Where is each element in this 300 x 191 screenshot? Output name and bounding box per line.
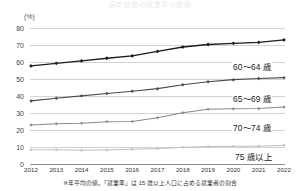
data-point xyxy=(181,111,184,114)
data-point xyxy=(80,94,83,97)
data-point xyxy=(257,77,260,80)
data-point xyxy=(181,146,184,149)
data-point xyxy=(29,123,32,126)
data-point xyxy=(206,43,210,47)
data-point xyxy=(80,59,84,63)
data-point xyxy=(105,56,109,60)
data-point xyxy=(105,120,108,123)
data-point xyxy=(156,116,159,119)
data-point xyxy=(130,54,134,58)
data-point xyxy=(131,90,134,93)
data-point xyxy=(105,148,108,151)
series-label-65-69: 65～69 歳 xyxy=(232,92,272,104)
data-point xyxy=(80,122,83,125)
data-point xyxy=(55,97,58,100)
data-point xyxy=(131,148,134,151)
series-label-60-64: 60～64 歳 xyxy=(232,60,272,72)
data-point xyxy=(282,105,285,108)
data-point xyxy=(156,50,160,54)
data-point xyxy=(29,64,33,68)
data-point xyxy=(55,148,58,151)
data-point xyxy=(206,80,209,83)
data-point xyxy=(80,149,83,152)
data-point xyxy=(207,145,210,148)
data-point xyxy=(131,120,134,123)
data-point xyxy=(55,122,58,125)
data-point xyxy=(29,99,32,102)
data-point xyxy=(54,61,58,65)
data-point xyxy=(181,83,184,86)
data-point xyxy=(232,78,235,81)
data-point xyxy=(30,148,33,151)
data-point xyxy=(156,87,159,90)
data-point xyxy=(283,144,286,147)
data-point xyxy=(232,107,235,110)
data-point xyxy=(207,108,210,111)
data-point xyxy=(282,76,285,79)
data-point xyxy=(232,145,235,148)
chart-container: 高年齢者の就業率の推移 (%) 80706050403020100 201220… xyxy=(0,0,300,191)
data-point xyxy=(257,41,261,45)
series-label-75-plus: 75 歳以上 xyxy=(234,150,273,162)
series-label-70-74: 70～74 歳 xyxy=(232,121,272,133)
data-point xyxy=(282,38,286,42)
data-point xyxy=(257,107,260,110)
data-point xyxy=(257,145,260,148)
data-point xyxy=(105,92,108,95)
data-point xyxy=(156,147,159,150)
data-point xyxy=(181,45,185,49)
chart-footnote: ※年平均の値。「就業率」は 15 歳以上人口に占める就業者の割合 xyxy=(0,178,300,187)
plot-area: 80706050403020100 2012201320142015201620… xyxy=(0,0,300,191)
data-point xyxy=(232,41,236,45)
